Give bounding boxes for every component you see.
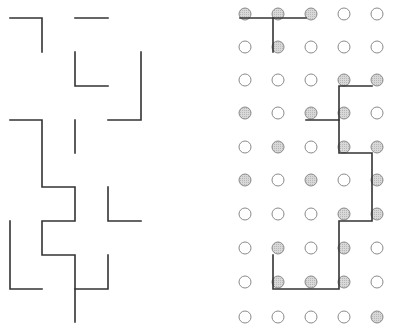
shaded-dot — [305, 174, 317, 186]
shaded-dot — [338, 208, 350, 220]
maze-segment — [108, 52, 141, 120]
open-dot — [305, 311, 317, 323]
shaded-dot — [272, 141, 284, 153]
open-dot — [371, 107, 383, 119]
open-dot — [338, 311, 350, 323]
maze-segment — [75, 52, 108, 86]
open-dot — [371, 8, 383, 20]
open-dot — [338, 8, 350, 20]
open-dot — [239, 141, 251, 153]
open-dot — [371, 276, 383, 288]
open-dot — [239, 74, 251, 86]
shaded-dot — [239, 174, 251, 186]
open-dot — [239, 208, 251, 220]
shaded-dot — [272, 242, 284, 254]
maze-segment — [75, 255, 108, 289]
maze-segment — [108, 187, 141, 221]
open-dot — [371, 41, 383, 53]
open-dot — [272, 208, 284, 220]
diagram-canvas — [0, 0, 393, 328]
open-dot — [272, 107, 284, 119]
shaded-dot — [239, 107, 251, 119]
open-dot — [338, 174, 350, 186]
open-dot — [239, 276, 251, 288]
open-dot — [305, 141, 317, 153]
shaded-dot — [305, 107, 317, 119]
open-dot — [305, 74, 317, 86]
open-dot — [305, 41, 317, 53]
open-dot — [305, 242, 317, 254]
right-dot-grid — [239, 8, 383, 323]
shaded-dot — [338, 74, 350, 86]
maze-segment — [10, 18, 42, 52]
left-maze-panel — [10, 18, 141, 322]
shaded-dot — [371, 141, 383, 153]
shaded-dot — [305, 276, 317, 288]
maze-segment — [10, 120, 75, 322]
open-dot — [305, 208, 317, 220]
open-dot — [272, 74, 284, 86]
path-segment — [273, 86, 372, 289]
shaded-dot — [371, 74, 383, 86]
open-dot — [338, 41, 350, 53]
open-dot — [272, 174, 284, 186]
shaded-dot — [371, 311, 383, 323]
open-dot — [239, 311, 251, 323]
open-dot — [239, 242, 251, 254]
open-dot — [239, 41, 251, 53]
maze-segment — [10, 221, 42, 289]
open-dot — [371, 242, 383, 254]
open-dot — [272, 311, 284, 323]
